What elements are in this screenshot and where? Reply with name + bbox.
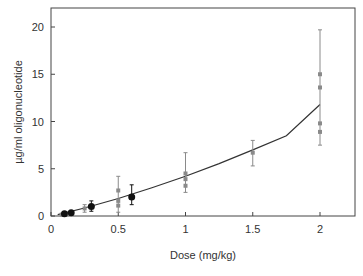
data-point [184, 171, 188, 175]
y-tick-label: 0 [38, 210, 44, 222]
data-point [116, 199, 120, 203]
data-point [68, 209, 75, 216]
x-axis-label: Dose (mg/kg) [170, 249, 236, 261]
data-point [116, 204, 120, 208]
y-axis-label: µg/ml oligonucleotide [12, 60, 24, 164]
y-axis-ticks: 05101520 [32, 21, 55, 222]
data-point [184, 177, 188, 181]
data-point [116, 188, 120, 192]
data-point [88, 203, 95, 210]
x-tick-label: 1 [182, 223, 188, 235]
x-tick-label: 0.5 [111, 223, 126, 235]
data-point [83, 206, 87, 210]
x-tick-label: 1.5 [245, 223, 260, 235]
data-point [184, 184, 188, 188]
data-point [128, 194, 135, 201]
data-point [61, 210, 68, 217]
x-tick-label: 2 [317, 223, 323, 235]
data-series [60, 30, 322, 217]
y-tick-label: 10 [32, 116, 44, 128]
fit-curve [58, 105, 320, 215]
x-tick-label: 0 [48, 223, 54, 235]
y-tick-label: 20 [32, 21, 44, 33]
chart-canvas: 05101520 00.511.52 Dose (mg/kg) µg/ml ol… [0, 0, 363, 276]
x-axis-ticks: 00.511.52 [48, 212, 323, 235]
data-point [318, 130, 322, 134]
y-tick-label: 15 [32, 68, 44, 80]
data-point [251, 151, 255, 155]
data-point [318, 85, 322, 89]
data-point [318, 121, 322, 125]
y-tick-label: 5 [38, 163, 44, 175]
data-point [318, 72, 322, 76]
plot-frame [51, 8, 355, 216]
